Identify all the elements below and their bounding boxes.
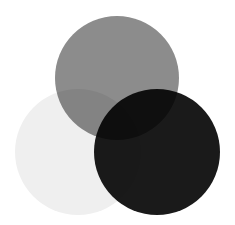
- venn-circle-right: [94, 89, 220, 215]
- venn-diagram-canvas: [0, 0, 235, 225]
- venn-diagram-svg: [0, 0, 235, 225]
